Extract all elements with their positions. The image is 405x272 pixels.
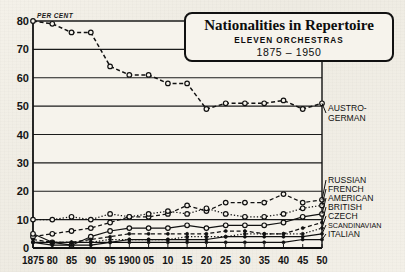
xtick-label-1950: 50: [316, 255, 328, 266]
data-point: [89, 244, 92, 247]
data-point: [262, 101, 267, 106]
data-point: [243, 241, 246, 244]
data-point: [128, 241, 131, 244]
series-label-german: GERMAN: [328, 113, 366, 123]
data-point: [204, 226, 209, 231]
ytick-label-70: 70: [17, 43, 29, 55]
data-point: [32, 241, 35, 244]
data-point: [262, 223, 267, 228]
chart-date-range: 1875 – 1950: [257, 46, 322, 58]
data-point: [186, 241, 189, 244]
series-label-italian: ITALIAN: [328, 229, 360, 239]
ytick-label-80: 80: [17, 15, 29, 27]
ytick-label-60: 60: [17, 72, 29, 84]
data-point: [223, 212, 228, 217]
xtick-label-1945: 45: [297, 255, 309, 266]
data-point: [147, 232, 150, 235]
xtick-label-1885: 85: [66, 255, 78, 266]
chart-title: Nationalities in Repertoire: [204, 17, 374, 33]
data-point: [128, 232, 131, 235]
data-point: [108, 212, 113, 217]
data-point: [31, 19, 36, 24]
data-point: [282, 235, 285, 238]
data-point: [243, 200, 248, 205]
data-point: [70, 244, 73, 247]
data-point: [301, 238, 304, 241]
data-point: [281, 220, 286, 225]
data-point: [146, 212, 151, 217]
xtick-label-1880: 80: [47, 255, 59, 266]
data-point: [147, 241, 150, 244]
ytick-label-50: 50: [17, 100, 29, 112]
data-point: [223, 200, 228, 205]
xtick-label-1875: 1875: [22, 255, 45, 266]
data-point: [223, 101, 228, 106]
chart-subtitle: ELEVEN ORCHESTRAS: [234, 36, 343, 45]
data-point: [166, 81, 171, 86]
data-point: [50, 22, 55, 27]
nationalities-line-chart: 01020304050607080PER CENT187580859095190…: [0, 0, 405, 272]
data-point: [166, 241, 169, 244]
data-point: [243, 235, 246, 238]
data-point: [50, 217, 55, 222]
ytick-label-0: 0: [23, 242, 29, 254]
y-axis-unit-label: PER CENT: [37, 12, 74, 19]
data-point: [89, 217, 94, 222]
data-point: [185, 212, 190, 217]
xtick-label-1905: 05: [143, 255, 155, 266]
xtick-label-1920: 20: [201, 255, 213, 266]
data-point: [108, 229, 113, 234]
data-point: [263, 235, 266, 238]
data-point: [205, 241, 208, 244]
data-point: [243, 215, 248, 220]
data-point: [185, 81, 190, 86]
data-point: [89, 226, 94, 231]
chart-screenshot: 01020304050607080PER CENT187580859095190…: [0, 0, 405, 272]
ytick-label-30: 30: [17, 157, 29, 169]
xtick-label-1900: 1900: [118, 255, 141, 266]
ytick-label-20: 20: [17, 185, 29, 197]
series-label-czech: CZECH: [328, 211, 358, 221]
data-point: [300, 200, 305, 205]
data-point: [146, 226, 151, 231]
xtick-label-1910: 10: [162, 255, 174, 266]
xtick-label-1935: 35: [259, 255, 271, 266]
data-point: [127, 73, 132, 78]
data-point: [281, 98, 286, 103]
series-label-austro: AUSTRO-: [328, 103, 367, 113]
data-point: [300, 215, 305, 220]
data-point: [243, 223, 248, 228]
data-point: [166, 232, 169, 235]
data-point: [204, 206, 209, 211]
ytick-label-40: 40: [17, 129, 29, 141]
xtick-label-1890: 90: [85, 255, 97, 266]
data-point: [185, 203, 190, 208]
data-point: [185, 223, 190, 228]
xtick-label-1940: 40: [278, 255, 290, 266]
data-point: [282, 241, 285, 244]
data-point: [69, 229, 74, 234]
data-point: [166, 209, 171, 214]
data-point: [262, 200, 267, 205]
data-point: [281, 192, 286, 197]
ytick-label-10: 10: [17, 214, 29, 226]
data-point: [224, 235, 227, 238]
data-point: [108, 220, 113, 225]
data-point: [224, 230, 227, 233]
data-point: [109, 241, 112, 244]
data-point: [262, 215, 267, 220]
data-point: [31, 217, 36, 222]
xtick-label-1895: 95: [105, 255, 117, 266]
data-point: [69, 30, 74, 35]
data-point: [69, 215, 74, 220]
data-point: [31, 232, 36, 237]
data-point: [166, 226, 171, 231]
data-point: [300, 107, 305, 112]
data-point: [51, 244, 54, 247]
data-point: [300, 206, 305, 211]
xtick-label-1915: 15: [182, 255, 194, 266]
data-point: [204, 107, 209, 112]
data-point: [50, 232, 55, 237]
data-point: [281, 212, 286, 217]
data-point: [263, 241, 266, 244]
